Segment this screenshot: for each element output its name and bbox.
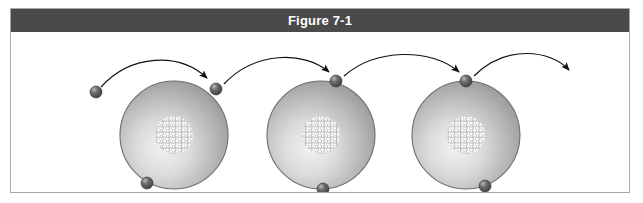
electron-on-atom-3-top — [460, 75, 472, 87]
electron-flow-diagram — [11, 32, 629, 192]
atoms-group — [120, 81, 520, 189]
electron-on-atom-3-bottom — [479, 180, 491, 192]
atom-1-nucleus — [155, 116, 193, 154]
figure-title-bar: Figure 7-1 — [11, 9, 629, 32]
atom-1 — [120, 81, 228, 189]
arrow-atom-1-to-atom-2 — [224, 57, 329, 84]
atom-3 — [412, 81, 520, 189]
atom-3-nucleus — [447, 116, 485, 154]
atom-2 — [267, 81, 375, 189]
figure-title: Figure 7-1 — [288, 13, 352, 28]
electron-on-atom-1-bottom — [141, 177, 153, 189]
arrow-atom-2-to-atom-3 — [344, 54, 459, 76]
electron-on-atom-1-top — [210, 83, 222, 95]
diagram-canvas — [11, 32, 629, 192]
arrow-atom-3-outgoing — [474, 54, 569, 77]
electron-on-atom-2-bottom — [317, 183, 329, 192]
free-electron — [90, 86, 102, 98]
figure-frame: Figure 7-1 — [10, 8, 630, 193]
electron-on-atom-2-top — [330, 75, 342, 87]
atom-2-nucleus — [302, 116, 340, 154]
figure-container: Figure 7-1 — [0, 0, 643, 203]
arrow-free-to-atom-1 — [101, 60, 207, 87]
